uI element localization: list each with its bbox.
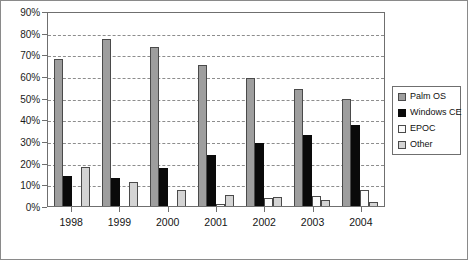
bar-group xyxy=(342,13,378,206)
bar-group xyxy=(198,13,234,206)
bar xyxy=(342,99,351,206)
bar-group xyxy=(294,13,330,206)
chart-container: 0%10%20%30%40%50%60%70%80%90% 1998199920… xyxy=(0,0,468,260)
plot-area xyxy=(47,12,385,207)
bar xyxy=(264,198,273,206)
y-axis-tick-label: 40% xyxy=(20,115,40,126)
bar-group xyxy=(246,13,282,206)
x-axis-tick-label: 2001 xyxy=(192,216,240,228)
bar-group xyxy=(54,13,90,206)
legend-swatch-icon xyxy=(398,125,406,133)
bar xyxy=(246,78,255,206)
x-axis-tick-label: 2004 xyxy=(337,216,385,228)
legend-swatch-icon xyxy=(398,93,406,101)
y-axis: 0%10%20%30%40%50%60%70%80%90% xyxy=(1,12,47,207)
bar xyxy=(198,65,207,206)
x-axis-tick-label: 1999 xyxy=(95,216,143,228)
x-axis-tick: 2003 xyxy=(288,207,336,228)
x-axis-tick: 1998 xyxy=(47,207,95,228)
x-axis-tick-mark xyxy=(313,207,314,212)
x-axis-tick-mark xyxy=(264,207,265,212)
x-axis-tick-mark xyxy=(216,207,217,212)
bar xyxy=(54,59,63,206)
x-axis-tick-label: 2000 xyxy=(144,216,192,228)
legend-item-label: Palm OS xyxy=(410,92,446,101)
bar xyxy=(216,204,225,206)
chart-legend: Palm OSWindows CEEPOCOther xyxy=(392,86,461,155)
bar-group xyxy=(102,13,138,206)
x-axis-tick: 2000 xyxy=(144,207,192,228)
bar-groups xyxy=(48,13,384,206)
bar xyxy=(273,197,282,206)
legend-item: Windows CE xyxy=(398,108,456,117)
x-axis-tick: 1999 xyxy=(95,207,143,228)
y-axis-tick-label: 30% xyxy=(20,137,40,148)
x-axis-tick-label: 2003 xyxy=(288,216,336,228)
y-axis-tick-label: 0% xyxy=(26,202,40,213)
bar xyxy=(150,47,159,206)
bar xyxy=(177,190,186,206)
x-axis: 1998199920002001200220032004 xyxy=(47,207,385,235)
y-axis-tick-label: 80% xyxy=(20,28,40,39)
bar xyxy=(294,89,303,206)
bar-group xyxy=(150,13,186,206)
x-axis-tick-mark xyxy=(361,207,362,212)
bar xyxy=(255,143,264,206)
legend-item-label: Other xyxy=(410,140,433,149)
y-axis-tick-label: 20% xyxy=(20,158,40,169)
x-axis-tick: 2004 xyxy=(337,207,385,228)
x-axis-tick: 2001 xyxy=(192,207,240,228)
bar xyxy=(351,125,360,206)
x-axis-tick-mark xyxy=(71,207,72,212)
bar xyxy=(303,135,312,207)
bar xyxy=(81,167,90,206)
bar xyxy=(63,176,72,206)
bar xyxy=(129,182,138,206)
y-axis-tick-label: 90% xyxy=(20,7,40,18)
legend-item: Palm OS xyxy=(398,92,456,101)
bar xyxy=(369,202,378,206)
y-axis-tick-label: 50% xyxy=(20,93,40,104)
bar xyxy=(225,195,234,206)
y-axis-tick-label: 70% xyxy=(20,50,40,61)
y-axis-tick-label: 60% xyxy=(20,72,40,83)
bar xyxy=(159,168,168,206)
legend-item-label: Windows CE xyxy=(410,108,462,117)
legend-swatch-icon xyxy=(398,141,406,149)
bar xyxy=(360,190,369,206)
x-axis-tick-label: 1998 xyxy=(47,216,95,228)
x-axis-tick-mark xyxy=(119,207,120,212)
x-axis-tick-mark xyxy=(168,207,169,212)
bar xyxy=(207,155,216,206)
legend-item: EPOC xyxy=(398,124,456,133)
bar xyxy=(111,178,120,206)
legend-item: Other xyxy=(398,140,456,149)
x-axis-tick-label: 2002 xyxy=(240,216,288,228)
bar xyxy=(321,200,330,207)
legend-swatch-icon xyxy=(398,109,406,117)
legend-item-label: EPOC xyxy=(410,124,436,133)
y-axis-tick-label: 10% xyxy=(20,180,40,191)
x-axis-tick: 2002 xyxy=(240,207,288,228)
bar xyxy=(312,196,321,206)
bar xyxy=(102,39,111,206)
